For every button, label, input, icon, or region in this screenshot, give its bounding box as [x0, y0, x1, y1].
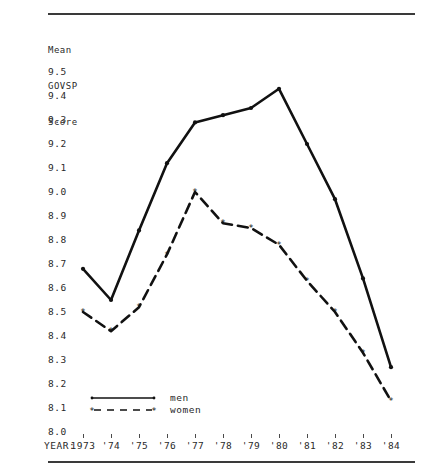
data-point-marker: * [388, 396, 393, 406]
data-point-marker: * [332, 307, 337, 317]
x-axis-tick-mark [335, 434, 336, 438]
legend-item-women: * * women [86, 404, 236, 417]
data-point-marker [249, 106, 253, 110]
x-axis-tick-label: '83 [354, 440, 373, 451]
data-point-marker [109, 298, 113, 302]
x-axis-tick-label: '80 [270, 440, 289, 451]
x-axis-tick-mark [195, 434, 196, 438]
x-axis-tick-mark [307, 434, 308, 438]
data-point-marker: * [192, 187, 197, 197]
data-point-marker: * [80, 307, 85, 317]
data-point-marker [137, 228, 141, 232]
chart-page: Mean GOVSP Score 9.59.49.39.29.19.08.98.… [0, 0, 429, 468]
x-axis-tick-mark [139, 434, 140, 438]
data-point-marker [277, 87, 281, 91]
x-axis-tick-label: '78 [214, 440, 233, 451]
x-axis-tick-mark [251, 434, 252, 438]
x-axis-tick-mark [363, 434, 364, 438]
data-point-marker [389, 365, 393, 369]
data-point-marker: * [220, 218, 225, 228]
x-axis-tick-label: 1973 [71, 440, 96, 451]
x-axis-row: YEAR: 1973'74'75'76'77'78'79'80'81'82'83… [0, 440, 429, 456]
data-point-marker [193, 120, 197, 124]
x-axis-tick-label: '77 [186, 440, 205, 451]
x-axis-tick-label: '74 [102, 440, 121, 451]
legend-swatch-men [86, 392, 166, 404]
x-axis-tick-label: '82 [326, 440, 345, 451]
x-axis-tick-mark [167, 434, 168, 438]
data-point-marker [361, 276, 365, 280]
data-point-marker: * [136, 302, 141, 312]
data-point-marker [221, 113, 225, 117]
data-point-marker [305, 142, 309, 146]
x-axis-tick-label: '84 [382, 440, 401, 451]
x-axis-tick-mark [279, 434, 280, 438]
svg-text:*: * [89, 406, 94, 416]
x-axis-tick-label: '81 [298, 440, 317, 451]
svg-text:*: * [151, 406, 156, 416]
data-point-marker: * [304, 276, 309, 286]
data-point-marker [81, 267, 85, 271]
x-axis-tick-label: '76 [158, 440, 177, 451]
series-markers-women: ************ [80, 187, 393, 406]
legend-label-men: men [170, 392, 189, 403]
x-axis-tick-mark [83, 434, 84, 438]
data-point-marker: * [108, 326, 113, 336]
data-point-marker [333, 197, 337, 201]
x-axis-tick-label: '79 [242, 440, 261, 451]
x-axis-tick-mark [111, 434, 112, 438]
x-axis-tick-label: '75 [130, 440, 149, 451]
data-point-marker [165, 161, 169, 165]
data-point-marker: * [360, 348, 365, 358]
legend-swatch-women: * * [86, 404, 166, 416]
legend-label-women: women [170, 404, 201, 415]
x-axis-tick-mark [223, 434, 224, 438]
data-point-marker: * [276, 240, 281, 250]
data-point-marker: * [164, 250, 169, 260]
chart-legend: men * * women [86, 392, 236, 418]
data-point-marker: * [248, 223, 253, 233]
x-axis-tick-mark [391, 434, 392, 438]
